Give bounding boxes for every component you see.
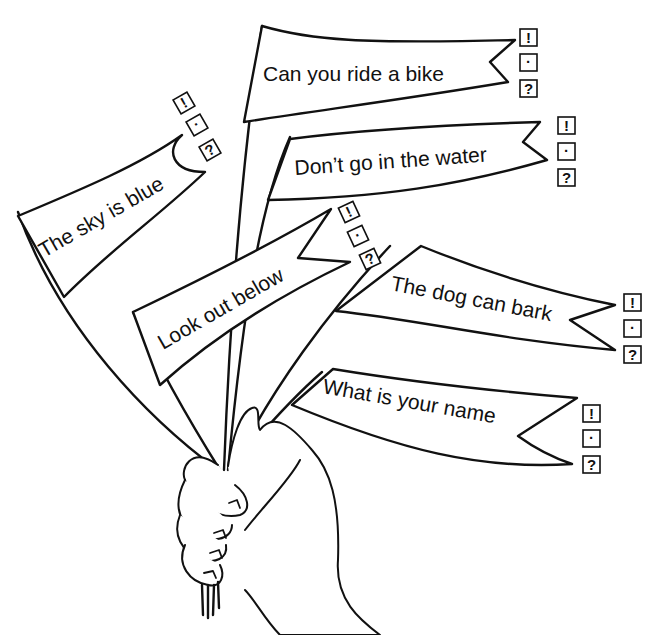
svg-text:?: ? [562,169,571,186]
choices-dog: ! · ? [624,294,641,363]
flag-bouquet-illustration: Can you ride a bike ! · ? Don’t go in th… [0,0,658,635]
svg-text:·: · [589,429,594,446]
choice-question[interactable]: ? [583,456,600,473]
choice-exclamation[interactable]: ! [173,91,195,114]
svg-text:·: · [630,319,635,336]
flag-bike-text: Can you ride a bike [263,62,444,85]
choice-period[interactable]: · [347,224,369,247]
svg-text:!: ! [630,294,635,311]
choice-period[interactable]: · [583,429,600,447]
margin-copyright-note [2,330,10,630]
choices-bike: ! · ? [520,29,537,97]
choice-question[interactable]: ? [520,80,537,97]
hand-illustration [177,407,380,635]
choices-sky: ! · ? [173,91,221,161]
svg-text:·: · [564,142,569,159]
choice-exclamation[interactable]: ! [558,117,575,134]
choice-exclamation[interactable]: ! [583,405,600,422]
svg-text:!: ! [564,117,569,134]
flag-below: Look out below [133,209,350,385]
choice-question[interactable]: ? [558,169,575,186]
flag-name: What is your name [292,369,577,465]
svg-text:!: ! [526,29,531,46]
choice-period[interactable]: · [558,142,575,160]
choice-exclamation[interactable]: ! [338,200,360,222]
choice-question[interactable]: ? [624,346,641,363]
flag-bike: Can you ride a bike [244,26,515,122]
svg-text:?: ? [524,80,533,97]
svg-text:·: · [526,53,531,70]
choices-below: ! · ? [338,200,381,269]
svg-text:?: ? [587,456,596,473]
choices-name: ! · ? [583,405,600,473]
svg-text:?: ? [628,346,637,363]
choice-period[interactable]: · [624,319,641,337]
flag-water: Don’t go in the water [268,122,547,200]
choice-period[interactable]: · [185,112,208,136]
choices-water: ! · ? [558,117,575,186]
choice-exclamation[interactable]: ! [520,29,537,46]
choice-question[interactable]: ? [359,247,381,269]
choice-question[interactable]: ? [199,138,221,161]
choice-period[interactable]: · [520,53,537,71]
svg-text:!: ! [589,405,594,422]
choice-exclamation[interactable]: ! [624,294,641,311]
